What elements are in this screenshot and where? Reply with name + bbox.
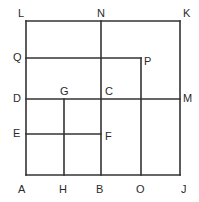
segments-group (26, 21, 180, 175)
vertex-label-m: M (183, 93, 192, 104)
vertex-label-q: Q (13, 52, 22, 63)
vertex-label-b: B (96, 184, 103, 195)
vertex-label-h: H (59, 184, 67, 195)
figure-container: LNKQPDGCMEFAHBOJ (0, 0, 199, 202)
vertex-label-g: G (60, 86, 69, 97)
vertex-label-l: L (18, 8, 24, 19)
vertex-label-p: P (144, 56, 151, 67)
vertex-label-n: N (97, 8, 105, 19)
vertex-label-a: A (18, 184, 25, 195)
vertex-label-d: D (13, 93, 21, 104)
vertex-label-j: J (181, 184, 187, 195)
figure-line-drawing (0, 0, 199, 202)
vertex-label-c: C (105, 86, 113, 97)
vertex-label-e: E (13, 128, 20, 139)
vertex-label-k: K (183, 8, 190, 19)
vertex-label-o: O (136, 184, 145, 195)
vertex-label-f: F (105, 131, 112, 142)
